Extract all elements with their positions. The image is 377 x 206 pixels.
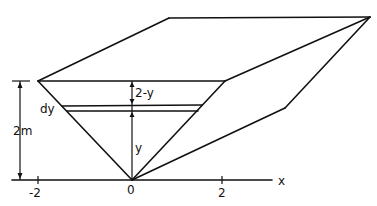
depth-above-label: 2-y: [135, 86, 154, 100]
height-label: 2m: [13, 124, 32, 138]
tick-label-neg2: -2: [29, 186, 41, 200]
tick-label-2: 2: [218, 186, 226, 200]
x-axis: [12, 176, 272, 184]
trough-diagram: 2m dy 2-y y x -2 0 2: [0, 0, 377, 206]
dy-label: dy: [40, 102, 55, 116]
trough-body: [38, 17, 370, 180]
tick-label-0: 0: [127, 183, 135, 197]
depth-measure: [130, 81, 135, 180]
x-axis-label: x: [278, 174, 285, 188]
depth-below-label: y: [135, 141, 142, 155]
